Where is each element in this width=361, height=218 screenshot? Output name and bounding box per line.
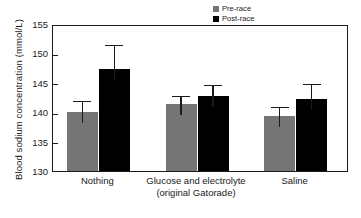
error-bar-stem xyxy=(279,107,280,128)
y-tick-label: 155 xyxy=(24,20,48,30)
error-bar-stem xyxy=(180,96,181,115)
y-tick-label: 145 xyxy=(24,79,48,89)
plot-area xyxy=(52,25,348,172)
error-bar-stem xyxy=(311,84,312,110)
chart-legend: Pre-racePost-race xyxy=(213,4,255,24)
error-bar-pre-race-2 xyxy=(166,96,197,116)
x-axis-label-group-3: Saline xyxy=(225,175,361,187)
legend-item-label: Post-race xyxy=(222,14,255,24)
error-bar-pre-race-3 xyxy=(264,107,295,129)
x-axis-label-line2: (original Gatorade) xyxy=(126,187,266,199)
error-bar-cap xyxy=(172,96,190,97)
error-bar-pre-race-1 xyxy=(67,101,98,124)
y-tick-label: 150 xyxy=(24,49,48,59)
legend-item-post-race: Post-race xyxy=(213,14,255,24)
legend-item-label: Pre-race xyxy=(222,4,251,14)
error-bar-post-race-2 xyxy=(198,85,229,109)
bar-chart-figure: Blood sodium concentration (mmol/L) 1551… xyxy=(0,0,361,218)
legend-item-pre-race: Pre-race xyxy=(213,4,255,14)
error-bar-cap xyxy=(271,107,289,108)
error-bar-cap xyxy=(303,84,321,85)
error-bar-cap xyxy=(105,45,123,46)
error-bar-post-race-3 xyxy=(296,84,327,111)
error-bar-stem xyxy=(114,45,115,80)
legend-swatch-icon xyxy=(213,16,219,22)
legend-swatch-icon xyxy=(213,6,219,12)
y-tick-label: 135 xyxy=(24,138,48,148)
y-tick-mark xyxy=(53,84,58,85)
error-bar-cap xyxy=(73,101,91,102)
y-tick-label: 140 xyxy=(24,108,48,118)
error-bar-cap xyxy=(204,85,222,86)
error-bar-post-race-1 xyxy=(99,45,130,81)
y-tick-mark xyxy=(53,114,58,115)
bar-post-race-1 xyxy=(99,69,130,171)
error-bar-stem xyxy=(212,85,213,108)
y-tick-mark xyxy=(53,143,58,144)
plot-inner xyxy=(53,26,347,171)
error-bar-stem xyxy=(82,101,83,123)
x-axis-label-line1: Saline xyxy=(281,175,307,186)
y-tick-mark xyxy=(53,55,58,56)
x-axis-category-labels: NothingGlucose and electrolyte(original … xyxy=(52,175,348,217)
x-axis-label-line1: Nothing xyxy=(81,175,114,186)
